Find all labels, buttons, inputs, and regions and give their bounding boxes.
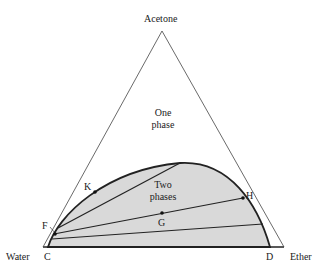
vertex-label-acetone: Acetone xyxy=(144,14,177,24)
point-k xyxy=(93,190,97,194)
point-label-g: G xyxy=(158,218,165,228)
vertex-label-water: Water xyxy=(6,252,30,262)
two-phase-region xyxy=(48,163,270,247)
f-leader xyxy=(50,227,55,233)
point-label-h: H xyxy=(246,191,253,201)
two-phase-label: Two phases xyxy=(146,180,180,202)
vertex-label-ether: Ether xyxy=(290,252,312,262)
point-label-k: K xyxy=(84,182,91,192)
point-g xyxy=(160,211,164,215)
one-phase-label: One phase xyxy=(146,108,180,130)
point-label-f: F xyxy=(42,221,48,231)
point-label-c: C xyxy=(44,252,51,262)
point-f xyxy=(53,232,57,236)
point-label-d: D xyxy=(266,252,273,262)
ternary-diagram xyxy=(0,0,328,272)
point-h xyxy=(241,196,245,200)
